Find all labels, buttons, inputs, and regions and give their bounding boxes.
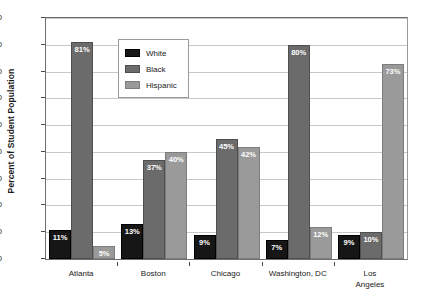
y-axis-title-text: Percent of Student Population <box>6 69 16 194</box>
bar-chicago-white: 9% <box>194 235 216 259</box>
x-axis-label: LosAngeles <box>334 268 406 290</box>
x-axis-label: Washington, DC <box>262 268 334 279</box>
legend-label: White <box>146 49 166 58</box>
x-axis-label: Chicago <box>189 268 261 279</box>
bar-value-label: 45% <box>217 142 237 151</box>
bar-chicago-hispanic: 42% <box>238 147 260 259</box>
bar-value-label: 11% <box>50 233 70 242</box>
bar-value-label: 7% <box>267 243 287 252</box>
bar-value-label: 12% <box>311 230 331 239</box>
legend-swatch-white <box>125 49 140 57</box>
x-tick-mark <box>334 262 335 266</box>
bar-chart: Percent of Student Population 0102030405… <box>0 0 423 305</box>
bar-washington-dc-hispanic: 12% <box>310 227 332 259</box>
x-axis: AtlantaBostonChicagoWashington, DCLosAng… <box>45 262 408 302</box>
bar-value-label: 10% <box>361 235 381 244</box>
bar-los-angeles-black: 10% <box>360 232 382 259</box>
bar-los-angeles-hispanic: 73% <box>382 64 404 259</box>
y-tick-label: 30 <box>0 173 2 182</box>
bar-boston-hispanic: 40% <box>165 152 187 259</box>
bar-boston-black: 37% <box>143 160 165 259</box>
bar-chicago-black: 45% <box>216 139 238 260</box>
x-axis-label: Boston <box>117 268 189 279</box>
bar-atlanta-hispanic: 5% <box>93 246 115 259</box>
y-tick-label: 60 <box>0 93 2 102</box>
bars-layer: 11%81%5%13%37%40%9%45%42%7%80%12%9%10%73… <box>46 18 407 259</box>
bar-value-label: 5% <box>94 249 114 258</box>
y-tick-label: 80 <box>0 39 2 48</box>
bar-value-label: 73% <box>383 67 403 76</box>
y-tick-label: 70 <box>0 66 2 75</box>
y-tick-label: 10 <box>0 227 2 236</box>
y-tick-label: 0 <box>0 254 2 263</box>
bar-value-label: 9% <box>339 238 359 247</box>
legend-swatch-hispanic <box>125 81 140 89</box>
x-tick-mark <box>117 262 118 266</box>
bar-value-label: 40% <box>166 155 186 164</box>
y-tick-label: 40 <box>0 146 2 155</box>
bar-value-label: 42% <box>239 150 259 159</box>
x-axis-label-line: Angeles <box>334 279 406 290</box>
x-axis-label-line: Atlanta <box>45 268 117 279</box>
x-tick-mark <box>262 262 263 266</box>
x-axis-label: Atlanta <box>45 268 117 279</box>
bar-value-label: 37% <box>144 163 164 172</box>
legend-item-white: White <box>125 45 188 61</box>
x-axis-label-line: Los <box>334 268 406 279</box>
x-tick-mark <box>189 262 190 266</box>
y-tick-label: 20 <box>0 200 2 209</box>
y-tick-label: 90 <box>0 13 2 22</box>
bar-value-label: 80% <box>289 48 309 57</box>
bar-value-label: 9% <box>195 238 215 247</box>
bar-washington-dc-white: 7% <box>266 240 288 259</box>
legend-item-hispanic: Hispanic <box>125 77 188 93</box>
legend-label: Hispanic <box>146 81 177 90</box>
bar-atlanta-black: 81% <box>71 42 93 259</box>
y-axis-title: Percent of Student Population <box>2 0 20 262</box>
legend-item-black: Black <box>125 61 188 77</box>
bar-value-label: 81% <box>72 45 92 54</box>
x-axis-label-line: Boston <box>117 268 189 279</box>
bar-value-label: 13% <box>122 227 142 236</box>
legend-label: Black <box>146 65 166 74</box>
bar-boston-white: 13% <box>121 224 143 259</box>
legend-swatch-black <box>125 65 140 73</box>
bar-los-angeles-white: 9% <box>338 235 360 259</box>
bar-atlanta-white: 11% <box>49 230 71 259</box>
plot-area: 11%81%5%13%37%40%9%45%42%7%80%12%9%10%73… <box>45 17 408 260</box>
chart-legend: WhiteBlackHispanic <box>118 39 189 98</box>
bar-washington-dc-black: 80% <box>288 45 310 259</box>
y-tick-label: 50 <box>0 120 2 129</box>
x-axis-label-line: Washington, DC <box>262 268 334 279</box>
x-axis-label-line: Chicago <box>189 268 261 279</box>
